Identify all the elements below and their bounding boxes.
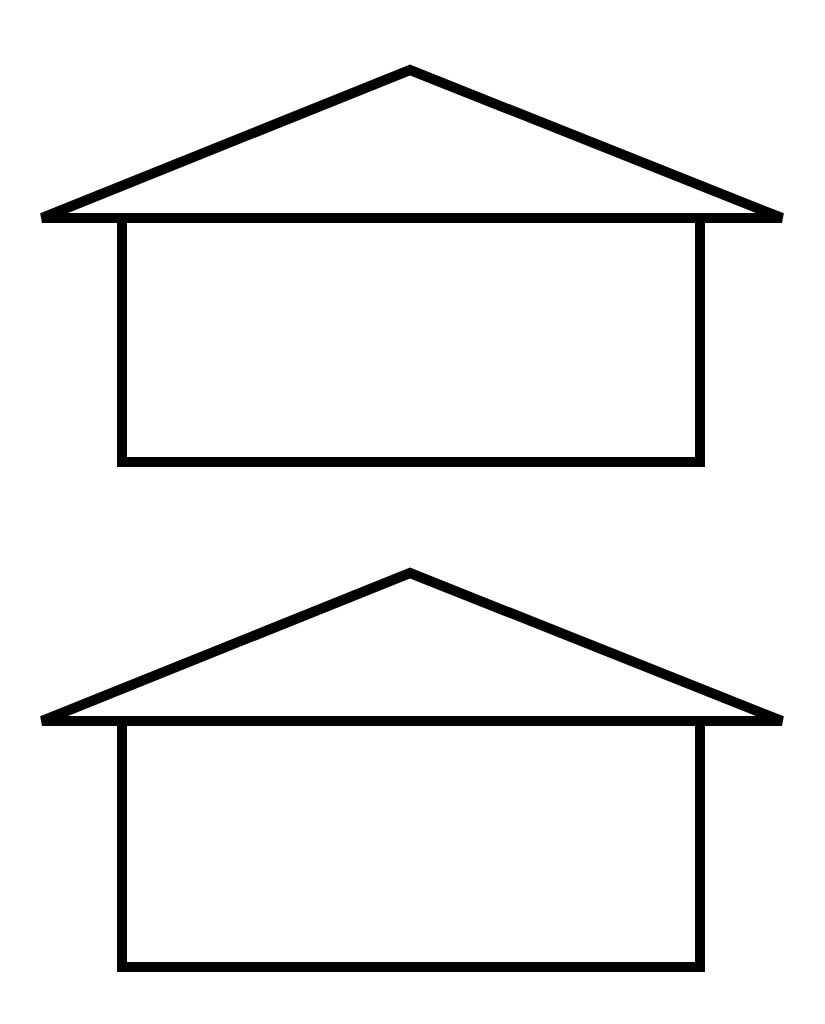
wall-rectangle: [122, 218, 700, 462]
wall-rectangle: [122, 721, 700, 967]
house-bottom: [42, 573, 782, 967]
house-top: [42, 70, 782, 462]
house-outlines-diagram: [0, 0, 825, 1024]
roof-triangle: [42, 573, 782, 721]
roof-triangle: [42, 70, 782, 218]
